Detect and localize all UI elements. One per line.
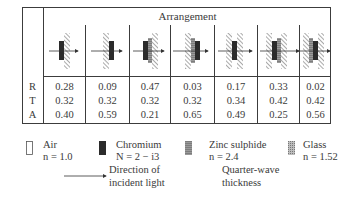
glass-chromium-glass-icon: [215, 25, 257, 76]
zinc-sulphide-index: n = 2.4: [209, 151, 239, 163]
zinc-sulphide-label: Zinc sulphide: [209, 139, 266, 151]
cell-r: 0.47: [130, 81, 170, 93]
cell-a: 0.49: [215, 109, 257, 121]
glass-zinc-sulphide-chromium-glass-icon: [300, 25, 331, 76]
thickness-note-line1: Quarter-wave: [222, 164, 280, 176]
cell-t: 0.34: [215, 95, 257, 107]
arrangement-icon-7: [300, 25, 331, 76]
glass-then-chromium-icon: [86, 25, 129, 76]
cell-t: 0.32: [44, 95, 85, 107]
zinc-sulphide-swatch-icon: [185, 141, 192, 155]
cell-a: 0.40: [44, 109, 85, 121]
cell-a: 0.25: [258, 109, 299, 121]
cell-t: 0.32: [130, 95, 170, 107]
cell-t: 0.32: [86, 95, 129, 107]
cell-r: 0.17: [215, 81, 257, 93]
cell-r: 0.03: [171, 81, 214, 93]
cell-r: 0.09: [86, 81, 129, 93]
arrangement-icon-2: [86, 25, 129, 76]
cell-t: 0.42: [300, 95, 331, 107]
cell-a: 0.65: [171, 109, 214, 121]
arrangement-icon-5: [215, 25, 257, 76]
chromium-zinc-sulphide-on-glass-icon: [130, 25, 170, 76]
direction-arrow-icon: [64, 172, 110, 180]
chromium-swatch-icon: [99, 141, 106, 155]
arrangement-icon-1: [44, 25, 85, 76]
cell-a: 0.59: [86, 109, 129, 121]
icon-row-divider: [43, 76, 331, 77]
glass-zinc-sulphide-chromium-icon: [171, 25, 214, 76]
cell-r: 0.33: [258, 81, 299, 93]
chromium-label: Chromium: [116, 139, 162, 151]
row-label-t: T: [22, 95, 43, 107]
arrangement-header: Arrangement: [44, 10, 331, 22]
arrangement-icon-6: [258, 25, 299, 76]
chromium-on-glass-icon: [44, 25, 85, 76]
arrangement-icon-3: [130, 25, 170, 76]
glass-swatch-icon: [288, 141, 295, 155]
glass-chromium-zinc-sulphide-glass-icon: [258, 25, 299, 76]
cell-a: 0.56: [300, 109, 331, 121]
row-label-r: R: [22, 81, 43, 93]
row-label-a: A: [22, 109, 43, 121]
cell-t: 0.32: [171, 95, 214, 107]
direction-note-line2: incident light: [109, 177, 165, 189]
air-label: Air: [43, 139, 57, 151]
air-swatch-icon: [26, 141, 33, 155]
cell-t: 0.42: [258, 95, 299, 107]
cell-a: 0.21: [130, 109, 170, 121]
thickness-note-line2: thickness: [222, 177, 261, 189]
cell-r: 0.28: [44, 81, 85, 93]
glass-index: n = 1.52: [303, 151, 338, 163]
direction-note-line1: Direction of: [109, 164, 160, 176]
cell-r: 0.02: [300, 81, 331, 93]
glass-label: Glass: [303, 139, 326, 151]
arrangement-icon-4: [171, 25, 214, 76]
air-index: n = 1.0: [43, 151, 73, 163]
chromium-index: N = 2 − i3: [116, 151, 159, 163]
